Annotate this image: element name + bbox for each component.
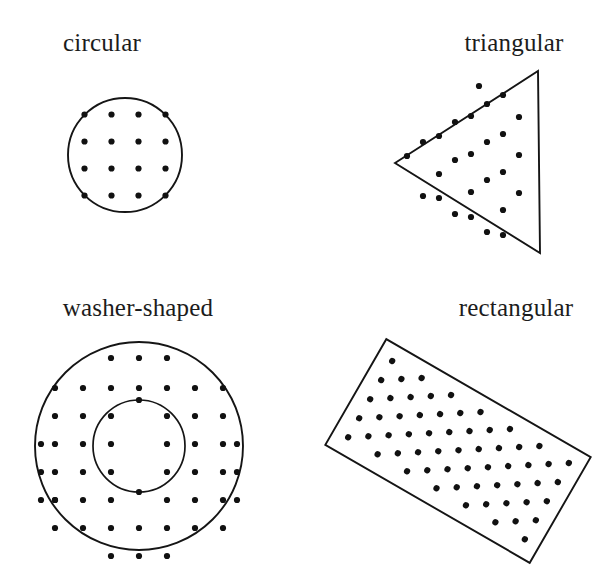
washer-shape-svg	[0, 293, 300, 586]
panel-washer: washer-shaped	[0, 293, 300, 586]
figure-root: circular	[0, 0, 602, 586]
circular-shape-svg	[0, 0, 300, 293]
triangular-shape-svg	[302, 0, 602, 293]
rectangular-shape-svg	[302, 293, 602, 586]
triangle-outline	[395, 71, 540, 253]
washer-inner-hole-outline	[93, 400, 185, 492]
panel-rectangular: rectangular	[302, 293, 602, 586]
panel-triangular: triangular	[302, 0, 602, 293]
rectangle-group	[325, 339, 590, 563]
panel-circular: circular	[0, 0, 300, 293]
